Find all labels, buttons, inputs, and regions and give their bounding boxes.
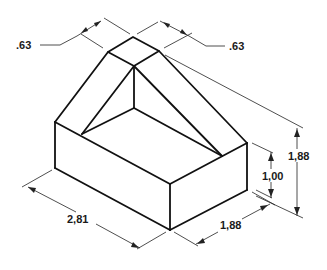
top-ridge-face [108,37,159,66]
object-outline [55,37,247,230]
dim-label-length: 2,81 [67,213,88,225]
dim-label-overall-height: 1,88 [288,150,309,162]
box-top-front-left [55,122,170,184]
dim-label-depth: 1,88 [220,219,241,231]
dimension-length: 2,81 [22,170,166,249]
dimension-depth: 1,88 [174,192,275,246]
dimension-base-height: 1,00 [252,143,284,198]
dim-label-base-height: 1,00 [262,170,283,182]
inner-base-right [134,108,222,156]
dimension-top-left-width: .63 [16,18,130,51]
inner-base-left [82,108,134,134]
isometric-drawing: .63 .63 1,88 1,00 2,81 [0,0,327,270]
dim-label-top-right: .63 [229,40,244,52]
dim-label-top-left: .63 [16,39,31,51]
inner-ridge-right [134,66,222,156]
